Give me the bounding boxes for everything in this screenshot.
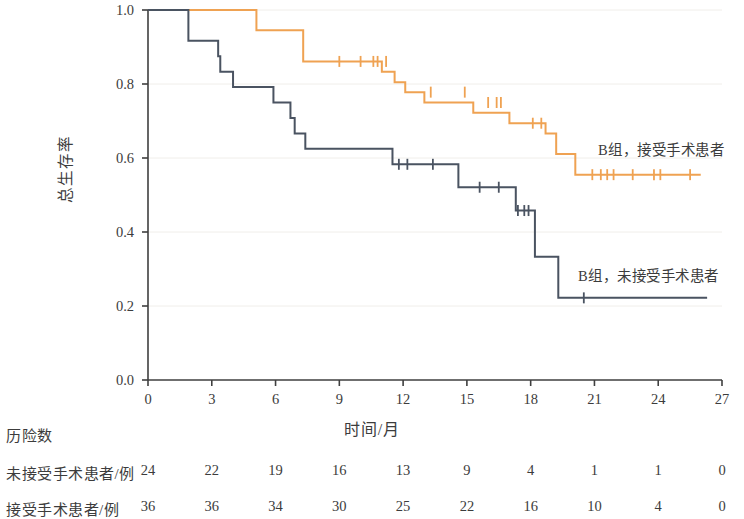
annotation-no-surgery-curve: B组，未接受手术患者: [578, 264, 719, 285]
risk-cell: 22: [197, 462, 227, 479]
annotation-surgery-curve: B组，接受手术患者: [598, 138, 724, 159]
risk-cell: 1: [579, 462, 609, 479]
risk-cell: 10: [579, 498, 609, 515]
risk-table-title: 历险数: [6, 424, 53, 445]
x-tick-label: 15: [452, 392, 482, 407]
risk-cell: 36: [197, 498, 227, 515]
risk-cell: 4: [516, 462, 546, 479]
y-tick-label: 0.0: [100, 373, 134, 388]
x-tick-label: 24: [643, 392, 673, 407]
risk-cell: 16: [324, 462, 354, 479]
risk-row-label: 未接受手术患者/例: [6, 462, 135, 483]
risk-cell: 22: [452, 498, 482, 515]
risk-cell: 0: [707, 498, 737, 515]
x-tick-label: 0: [133, 392, 163, 407]
x-tick-label: 9: [324, 392, 354, 407]
risk-cell: 34: [261, 498, 291, 515]
risk-cell: 24: [133, 462, 163, 479]
x-tick-label: 6: [261, 392, 291, 407]
y-tick-label: 0.8: [100, 77, 134, 92]
x-tick-label: 21: [579, 392, 609, 407]
risk-cell: 36: [133, 498, 163, 515]
y-tick-label: 1.0: [100, 3, 134, 18]
axes: [142, 10, 722, 386]
y-tick-label: 0.4: [100, 225, 134, 240]
risk-cell: 1: [643, 462, 673, 479]
x-tick-label: 12: [388, 392, 418, 407]
x-tick-label: 3: [197, 392, 227, 407]
risk-cell: 30: [324, 498, 354, 515]
number-at-risk-table: 历险数 未接受手术患者/例242219161394110接受手术患者/例3636…: [0, 424, 744, 516]
risk-cell: 4: [643, 498, 673, 515]
risk-cell: 9: [452, 462, 482, 479]
risk-cell: 16: [516, 498, 546, 515]
y-tick-label: 0.6: [100, 151, 134, 166]
risk-cell: 19: [261, 462, 291, 479]
y-axis-title: 总生存率: [53, 99, 75, 239]
risk-cell: 13: [388, 462, 418, 479]
risk-cell: 0: [707, 462, 737, 479]
x-tick-label: 18: [516, 392, 546, 407]
x-tick-label: 27: [707, 392, 737, 407]
risk-cell: 25: [388, 498, 418, 515]
risk-row-label: 接受手术患者/例: [6, 498, 119, 519]
y-tick-label: 0.2: [100, 299, 134, 314]
